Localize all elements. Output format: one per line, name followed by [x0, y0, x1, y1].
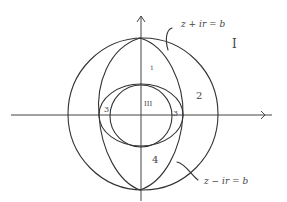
outer-boundary-curve: [68, 38, 218, 190]
region-diagram: z + ir = b z − ir = b I 1 2 3 3 III 4: [0, 0, 287, 202]
region-label-2: 2: [196, 90, 202, 101]
lens-left-curve: [99, 38, 140, 190]
upper-label-leader: [166, 28, 172, 50]
region-label-4: 4: [152, 154, 158, 165]
lower-curve-label: z − ir = b: [203, 176, 248, 186]
region-label-3-left: 3: [104, 105, 109, 114]
region-label-1: 1: [150, 64, 154, 71]
region-label-I: I: [232, 37, 237, 51]
upper-curve-label: z + ir = b: [180, 19, 225, 29]
region-label-III: III: [144, 100, 153, 108]
lower-label-leader: [177, 162, 198, 180]
region-label-3-right: 3: [173, 109, 178, 118]
